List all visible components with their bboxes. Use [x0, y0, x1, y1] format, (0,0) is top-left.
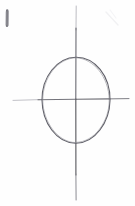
paper-background [0, 0, 135, 206]
sketch-canvas: Hand-drawn ellipse on crossed axes ellip… [0, 0, 135, 206]
corner-tick-icon [6, 11, 8, 26]
sketch-drawing-surface [0, 0, 135, 206]
